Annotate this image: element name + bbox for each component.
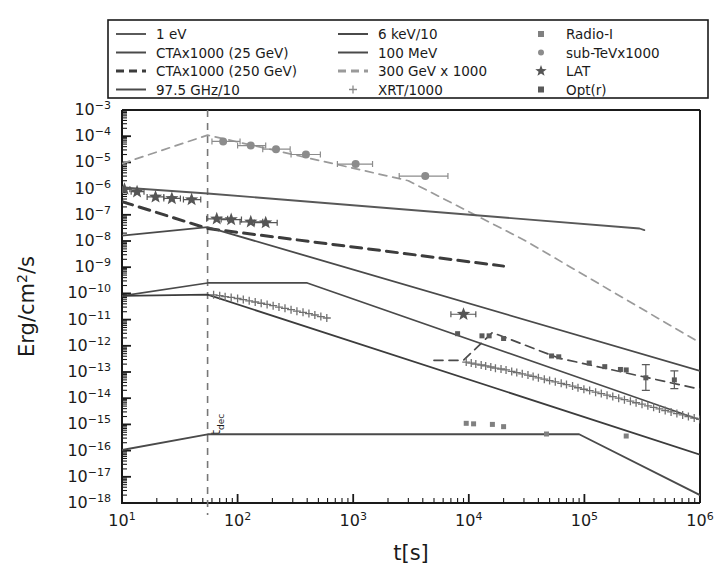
y-tick-label: 10−4 <box>74 125 111 145</box>
x-tick-label: 102 <box>224 510 251 530</box>
data-point-xrt-1000 <box>597 390 605 398</box>
data-point-opt-r <box>556 354 561 359</box>
data-point-xrt-1000 <box>467 359 475 367</box>
data-point-xrt-1000 <box>534 374 542 382</box>
legend-label: CTAx1000 (250 GeV) <box>156 63 297 79</box>
data-point-xrt-1000 <box>696 415 704 423</box>
data-point-xrt-1000 <box>690 414 698 422</box>
data-point-xrt-1000 <box>592 388 600 396</box>
data-point-xrt-1000 <box>586 387 594 395</box>
data-point-xrt-1000 <box>477 361 485 369</box>
data-point-xrt-1000 <box>551 378 559 386</box>
data-point-lat <box>130 185 143 198</box>
data-point-lat <box>225 213 238 226</box>
data-point-xrt-1000 <box>239 296 247 304</box>
y-tick-label: 10−14 <box>67 387 111 407</box>
x-tick-label: 101 <box>108 510 135 530</box>
y-tick-label: 10−17 <box>67 466 111 486</box>
legend-marker-swatch <box>538 31 544 37</box>
x-axis-ticks: 101102103104105106 <box>108 494 713 530</box>
data-point-xrt-1000 <box>632 399 640 407</box>
data-point-lat <box>149 190 162 203</box>
data-point-xrt-1000 <box>257 299 265 307</box>
data-point-opt-r <box>501 336 506 341</box>
data-point-xrt-1000 <box>546 377 554 385</box>
curve-ctax1000-250-gev <box>122 202 504 267</box>
x-tick-label: 105 <box>571 510 598 530</box>
data-point-xrt-1000 <box>487 363 495 371</box>
data-point-sub-tevx1000 <box>219 137 227 145</box>
legend-label: LAT <box>566 63 591 79</box>
curve-ctax1000-25-gev <box>122 227 700 371</box>
data-point-xrt-1000 <box>311 311 319 319</box>
legend-label: 100 MeV <box>378 45 438 61</box>
y-tick-label: 10−16 <box>67 440 111 460</box>
data-point-xrt-1000 <box>323 314 331 322</box>
y-tick-label: 10−15 <box>67 413 111 433</box>
tdec-label: tdec <box>208 414 226 435</box>
data-point-opt-r <box>455 331 460 336</box>
data-point-xrt-1000 <box>562 381 570 389</box>
sed-lightcurve-plot: 10110210310410510610−310−410−510−610−710… <box>0 0 718 586</box>
data-point-xrt-1000 <box>263 300 271 308</box>
data-point-xrt-1000 <box>305 310 313 318</box>
legend-label: 6 keV/10 <box>378 26 437 42</box>
y-tick-label: 10−8 <box>74 230 111 250</box>
curve-97-5-ghz-10 <box>122 434 700 495</box>
data-point-xrt-1000 <box>472 360 480 368</box>
y-tick-label: 10−18 <box>67 492 111 512</box>
data-point-xrt-1000 <box>275 303 283 311</box>
data-point-xrt-1000 <box>661 406 669 414</box>
data-point-lat <box>185 193 198 206</box>
data-point-radio-i <box>490 422 495 427</box>
data-point-sub-tevx1000 <box>421 172 429 180</box>
data-point-radio-i <box>464 421 469 426</box>
legend-label: XRT/1000 <box>378 82 443 98</box>
data-point-opt-r <box>549 353 554 358</box>
data-point-xrt-1000 <box>287 306 295 314</box>
data-point-xrt-1000 <box>227 293 235 301</box>
data-point-xrt-1000 <box>609 393 617 401</box>
data-point-lat <box>244 215 257 228</box>
data-point-xrt-1000 <box>251 298 259 306</box>
scatter-series-sub-tevx1000 <box>212 137 448 180</box>
y-tick-label: 10−7 <box>74 204 111 224</box>
data-point-radio-i <box>624 434 629 439</box>
data-point-xrt-1000 <box>569 382 577 390</box>
y-tick-label: 10−11 <box>67 309 111 329</box>
data-point-xrt-1000 <box>524 371 532 379</box>
data-point-opt-r <box>479 333 484 338</box>
data-point-xrt-1000 <box>557 379 565 387</box>
error-bar-y <box>670 371 678 389</box>
x-tick-label: 104 <box>455 510 482 530</box>
legend-label: CTAx1000 (25 GeV) <box>156 45 289 61</box>
data-point-xrt-1000 <box>684 413 692 421</box>
curve-300-gev-x-1000 <box>122 135 700 343</box>
axis-spines <box>122 110 700 503</box>
data-point-xrt-1000 <box>317 313 325 321</box>
legend-label: sub-TeVx1000 <box>566 45 660 61</box>
legend-label: 97.5 GHz/10 <box>156 82 240 98</box>
data-point-xrt-1000 <box>574 384 582 392</box>
scatter-series-xrt-1000 <box>210 291 704 424</box>
data-point-opt-r <box>618 367 623 372</box>
scatter-series-lat <box>118 182 476 320</box>
y-tick-label: 10−6 <box>74 178 111 198</box>
plot-frame <box>122 110 700 503</box>
legend-label: 1 eV <box>156 26 187 42</box>
y-tick-label: 10−9 <box>74 256 111 276</box>
data-layer <box>118 135 704 495</box>
x-tick-label: 103 <box>340 510 367 530</box>
legend-label: 300 GeV x 1000 <box>378 63 487 79</box>
data-point-sub-tevx1000 <box>272 145 280 153</box>
legend-marker-swatch <box>538 50 544 56</box>
data-point-xrt-1000 <box>615 394 623 402</box>
data-point-xrt-1000 <box>529 372 537 380</box>
data-point-xrt-1000 <box>508 367 516 375</box>
data-point-xrt-1000 <box>482 362 490 370</box>
data-point-xrt-1000 <box>580 385 588 393</box>
data-point-sub-tevx1000 <box>352 160 360 168</box>
y-tick-label: 10−3 <box>74 99 111 119</box>
legend-label: Opt(r) <box>566 82 607 98</box>
scatter-series-opt-r <box>455 331 677 382</box>
